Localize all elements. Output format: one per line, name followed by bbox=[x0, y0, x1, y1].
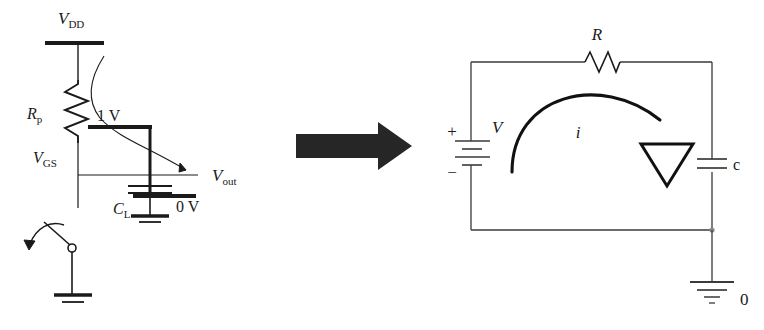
battery-minus-sign: − bbox=[447, 163, 457, 182]
battery-plus-sign: + bbox=[447, 122, 457, 141]
zero-volt-label: 0 V bbox=[176, 198, 200, 215]
resistor-label: R bbox=[591, 25, 603, 44]
capacitor-label: c bbox=[733, 156, 740, 173]
circuit-diagram-figure: VDD Rp VGS 1 V CL bbox=[0, 0, 764, 330]
ground-zero-label: 0 bbox=[740, 290, 749, 309]
one-volt-label: 1 V bbox=[97, 107, 121, 124]
current-label: i bbox=[576, 123, 581, 142]
